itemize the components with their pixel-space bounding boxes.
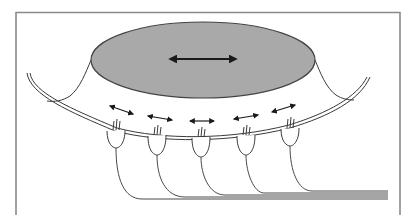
stereocilia [113, 121, 114, 130]
hair-cell-motion-arrow-icon [234, 115, 258, 119]
hair-cell-body [107, 130, 125, 148]
stereocilia [157, 125, 158, 135]
hair-cell [148, 125, 166, 155]
neuromast-diagram [0, 0, 416, 215]
stereocilia [154, 127, 155, 135]
nerve-fiber [290, 146, 388, 191]
hair-cell-body [192, 137, 210, 157]
cupula-left-side [47, 60, 91, 101]
hair-cell-body [281, 128, 299, 146]
stereocilia [198, 129, 199, 137]
stereocilia [201, 127, 202, 137]
stereocilia [287, 119, 288, 128]
stereocilia [204, 129, 205, 137]
hair-cell-body [148, 135, 166, 155]
cupula-right-side [315, 60, 354, 100]
hair-cell-motion-arrow-icon [110, 106, 133, 114]
hair-cell [237, 125, 255, 155]
hair-cell [107, 119, 125, 148]
stereocilia [290, 117, 291, 128]
hair-cell [281, 117, 299, 146]
hair-cell-body [237, 135, 255, 155]
stereocilia [160, 127, 161, 135]
nerve-fiber [246, 155, 388, 193]
hair-cell-motion-arrow-icon [272, 105, 295, 112]
stereocilia [249, 127, 250, 135]
hair-cell [192, 127, 210, 157]
hair-cell-motion-arrow-icon [148, 116, 172, 120]
